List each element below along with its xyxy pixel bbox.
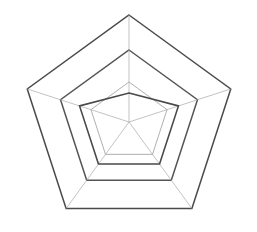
grid-spoke-axis-E — [27, 89, 129, 122]
grid-spoke-axis-B — [129, 89, 231, 122]
radar-chart-svg — [0, 0, 257, 232]
grid-spoke-axis-C — [129, 122, 192, 209]
clipped-caption-text: — — — — —— —— — [22, 0, 142, 3]
radar-chart-container: — — — — —— —— — [0, 0, 257, 232]
grid-spoke-axis-D — [66, 122, 129, 209]
